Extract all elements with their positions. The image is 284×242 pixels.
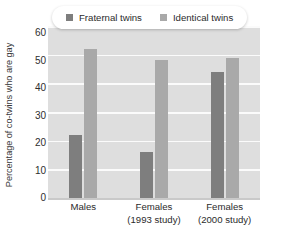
y-axis-tick-60: 60: [18, 28, 46, 38]
gridline-0: [48, 198, 260, 200]
x-axis-label-line1: Males: [71, 201, 97, 212]
chart-legend: Fraternal twinsIdentical twins: [52, 6, 247, 29]
y-axis-title: Percentage of co-twins who are gay: [2, 15, 16, 215]
bar-fraternal-group-2: [211, 72, 224, 198]
y-axis-tick-10: 10: [18, 166, 46, 176]
bar-fraternal-group-1: [140, 152, 153, 198]
legend-swatch-identical-icon: [160, 14, 167, 21]
bar-identical-group-1: [155, 60, 168, 198]
y-axis-tick-labels: 6050403020100: [18, 33, 46, 198]
x-axis-label-line2: (2000 study): [189, 214, 260, 227]
y-axis-tick-0: 0: [18, 193, 46, 203]
bar-identical-group-2: [226, 58, 239, 198]
bars-layer: [48, 26, 260, 198]
legend-label: Identical twins: [173, 13, 233, 23]
x-axis-label-group-0: Males: [48, 201, 119, 214]
y-axis-tick-50: 50: [18, 56, 46, 66]
legend-item-fraternal[interactable]: Fraternal twins: [66, 13, 142, 23]
x-axis-label-line2: (1993 study): [119, 214, 190, 227]
bar-chart: Percentage of co-twins who are gay 60504…: [0, 0, 284, 242]
y-axis-tick-40: 40: [18, 83, 46, 93]
plot-area: [48, 26, 260, 198]
legend-swatch-fraternal-icon: [66, 14, 73, 21]
x-axis-label-group-1: Females(1993 study): [119, 201, 190, 226]
legend-label: Fraternal twins: [79, 13, 142, 23]
bar-fraternal-group-0: [69, 135, 82, 198]
x-axis-label-group-2: Females(2000 study): [189, 201, 260, 226]
x-axis-label-line1: Females: [206, 201, 243, 212]
x-axis-category-labels: MalesFemales(1993 study)Females(2000 stu…: [48, 201, 260, 241]
y-axis-tick-30: 30: [18, 111, 46, 121]
legend-item-identical[interactable]: Identical twins: [160, 13, 233, 23]
x-axis-label-line1: Females: [136, 201, 173, 212]
y-axis-tick-20: 20: [18, 138, 46, 148]
bar-identical-group-0: [84, 49, 97, 198]
